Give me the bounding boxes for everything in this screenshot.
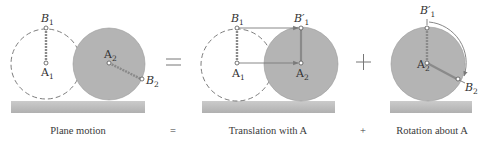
label-b1: B1 (40, 12, 54, 27)
point-a2 (299, 61, 303, 65)
label-a1: A1 (231, 67, 245, 82)
label-b1prime: B′1 (293, 12, 309, 27)
point-b2 (456, 77, 460, 81)
point-b1prime (299, 26, 303, 30)
equals-operator (166, 59, 181, 65)
panel-translation: B1 B′1 A1 A2 (201, 12, 338, 113)
ground (202, 101, 335, 113)
label-b1prime: B′1 (419, 4, 435, 19)
point-b1 (235, 26, 239, 30)
ground (11, 101, 145, 113)
panel-plane-motion: B1 A1 A2 B2 (11, 12, 159, 113)
panel-rotation: B′1 A2 B2 (390, 4, 478, 113)
plus-operator (356, 54, 371, 70)
caption-plane-motion: Plane motion (50, 125, 106, 136)
caption-equals: = (170, 125, 176, 136)
point-b1 (44, 26, 48, 30)
point-b1prime (425, 26, 429, 30)
ground (390, 101, 472, 113)
label-b2: B2 (145, 74, 159, 89)
point-a1 (235, 61, 239, 65)
caption-rotation: Rotation about A (396, 125, 468, 136)
point-a1 (44, 61, 48, 65)
caption-plus: + (360, 125, 366, 136)
label-b2: B2 (464, 81, 478, 96)
caption-translation: Translation with A (229, 125, 308, 136)
label-a1: A1 (40, 66, 54, 81)
label-b1: B1 (230, 12, 244, 27)
point-a2 (107, 61, 111, 65)
plane-motion-diagram: B1 A1 A2 B2 B1 B′1 A1 A2 (0, 0, 485, 145)
point-b2 (140, 77, 144, 81)
